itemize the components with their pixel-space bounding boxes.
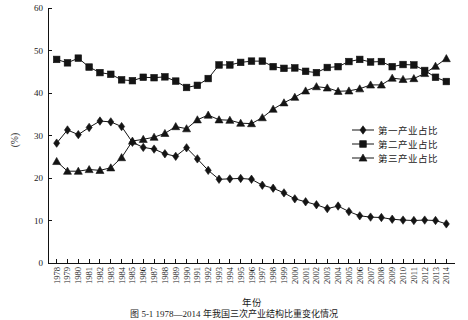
data-point-triangle (85, 166, 93, 173)
data-point-square (172, 78, 179, 85)
figure-container: 0102030405060 19781979198019811982198319… (0, 0, 468, 320)
x-tick-label: 1994 (225, 266, 235, 284)
data-point-triangle (215, 116, 223, 123)
data-point-square (291, 65, 298, 72)
data-point-triangle (432, 62, 440, 69)
legend: 第一产业占比第二产业占比第三产业占比 (352, 125, 438, 164)
legend-item-1[interactable]: 第一产业占比 (352, 125, 438, 136)
data-point-diamond (270, 184, 276, 192)
data-point-diamond (75, 130, 81, 138)
data-point-diamond (432, 216, 438, 224)
data-point-square (140, 74, 147, 81)
data-point-diamond (303, 198, 309, 206)
data-point-square (194, 82, 201, 89)
data-point-diamond (140, 143, 146, 151)
data-point-triangle (388, 74, 396, 81)
x-tick-label: 1985 (127, 267, 137, 284)
x-tick-label: 2008 (376, 267, 386, 284)
data-point-diamond (335, 202, 341, 210)
data-point-triangle (269, 105, 277, 112)
x-tick-label: 2014 (441, 266, 451, 284)
data-point-square (86, 64, 93, 71)
data-point-square (162, 74, 169, 81)
data-point-triangle (410, 75, 418, 82)
data-point-square (367, 59, 374, 66)
x-tick-label: 1979 (62, 267, 72, 284)
data-point-diamond (357, 212, 363, 220)
series-2 (53, 55, 449, 91)
data-point-diamond (151, 145, 157, 153)
x-tick-label: 1995 (236, 267, 246, 284)
data-point-square (129, 77, 136, 84)
x-tick-label: 1992 (203, 267, 213, 284)
data-point-diamond (400, 216, 406, 224)
data-point-square (205, 75, 212, 82)
x-tick-label: 1980 (73, 267, 83, 284)
data-point-square (400, 61, 407, 68)
x-tick-label: 1990 (182, 267, 192, 284)
y-tick-label: 50 (34, 46, 44, 56)
data-point-square (432, 74, 439, 81)
data-point-diamond (86, 123, 92, 131)
legend-item-3[interactable]: 第三产业占比 (352, 153, 438, 164)
data-point-square (75, 55, 82, 62)
x-tick-label: 1998 (268, 267, 278, 284)
data-point-diamond (216, 175, 222, 183)
x-tick-label: 1988 (160, 267, 170, 284)
data-point-triangle (302, 87, 310, 94)
data-point-diamond (248, 175, 254, 183)
data-point-diamond (389, 215, 395, 223)
data-point-square (324, 64, 331, 71)
x-tick-label: 2005 (344, 267, 354, 284)
x-tick-label: 1991 (192, 267, 202, 284)
data-point-triangle (356, 85, 364, 92)
x-tick-label: 2012 (420, 267, 430, 284)
x-tick-label: 1978 (52, 267, 62, 284)
data-point-square (270, 63, 277, 70)
data-point-square (443, 78, 450, 85)
data-point-diamond (173, 152, 179, 160)
x-tick-label: 2002 (311, 267, 321, 284)
data-point-diamond (238, 174, 244, 182)
data-point-square (335, 63, 342, 70)
data-point-diamond (108, 118, 114, 126)
data-point-square (107, 71, 114, 78)
data-point-square (302, 68, 309, 75)
data-point-diamond (360, 126, 366, 134)
x-tick-label: 1987 (149, 267, 159, 284)
data-point-square (281, 65, 288, 72)
x-tick-label: 2011 (409, 267, 419, 284)
legend-label: 第一产业占比 (378, 125, 438, 136)
x-tick-label: 1986 (138, 267, 148, 284)
data-point-triangle (193, 116, 201, 123)
data-point-square (216, 62, 223, 69)
data-point-diamond (292, 195, 298, 203)
y-tick-label: 60 (34, 3, 44, 13)
x-tick-label: 1997 (257, 267, 267, 284)
data-point-triangle (312, 83, 320, 90)
legend-item-2[interactable]: 第二产业占比 (352, 139, 438, 150)
data-point-triangle (53, 157, 61, 164)
data-point-diamond (259, 181, 265, 189)
data-point-square (389, 63, 396, 70)
data-point-triangle (204, 111, 212, 118)
x-tick-label: 2010 (398, 267, 408, 284)
x-tick-label: 1999 (279, 267, 289, 284)
data-point-triangle (442, 55, 450, 62)
data-point-square (97, 69, 104, 76)
data-point-diamond (313, 201, 319, 209)
x-tick-label: 2001 (301, 267, 311, 284)
data-point-square (227, 62, 234, 69)
data-point-triangle (172, 123, 180, 130)
data-point-square (346, 58, 353, 65)
data-point-diamond (368, 213, 374, 221)
data-point-square (411, 62, 418, 69)
y-tick-label: 30 (34, 131, 44, 141)
y-tick-label: 0 (39, 258, 44, 268)
data-point-diamond (162, 150, 168, 158)
data-point-square (378, 58, 385, 65)
data-point-triangle (118, 154, 126, 161)
data-point-square (356, 56, 363, 63)
x-tick-label: 1993 (214, 267, 224, 284)
x-tick-label: 2006 (355, 267, 365, 284)
